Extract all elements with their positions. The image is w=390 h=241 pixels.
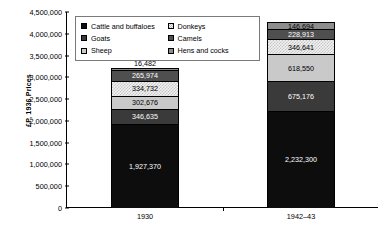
segment-cattle-and-buffaloes-1930[interactable]: 1,927,370 — [112, 124, 178, 208]
y-tick-label: 3,500,000 — [30, 51, 67, 60]
segment-value: 618,550 — [288, 65, 314, 72]
segment-camels-1930[interactable]: 265,974 — [112, 70, 178, 82]
y-tick-mark — [65, 77, 69, 78]
legend-item-cattle-and-buffaloes[interactable]: Cattle and buffaloes — [81, 22, 168, 31]
segment-goats-1942-43[interactable]: 675,176 — [268, 81, 334, 110]
segment-goats-1930[interactable]: 346,635 — [112, 109, 178, 124]
y-tick-label: 4,500,000 — [30, 8, 67, 17]
legend-item-goats[interactable]: Goats — [81, 34, 168, 43]
y-tick-mark — [65, 33, 69, 34]
segment-cattle-and-buffaloes-1942-43[interactable]: 2,232,300 — [268, 111, 334, 208]
y-tick-mark — [65, 208, 69, 209]
y-tick-label: 1,000,000 — [30, 160, 67, 169]
legend-item-hens-and-cocks[interactable]: Hens and cocks — [168, 46, 255, 55]
segment-value: 1,927,370 — [129, 163, 161, 170]
segment-value: 2,232,300 — [285, 156, 317, 163]
legend-label: Goats — [91, 34, 110, 43]
segment-value: 265,974 — [132, 72, 158, 79]
y-tick-mark — [65, 99, 69, 100]
y-tick-label: 4,000,000 — [30, 29, 67, 38]
segment-value: 346,641 — [288, 44, 314, 51]
y-tick-mark — [65, 186, 69, 187]
bar-1930[interactable]: 16,482 265,974 334,732 302,676 346,635 1… — [111, 68, 179, 207]
y-tick-label: 500,000 — [36, 182, 67, 191]
legend-label: Camels — [178, 34, 202, 43]
segment-sheep-1942-43[interactable]: 618,550 — [268, 54, 334, 81]
segment-value: 302,676 — [132, 99, 158, 106]
donkeys-swatch-icon — [168, 23, 174, 29]
hens-swatch-icon — [168, 48, 174, 54]
legend-label: Sheep — [91, 46, 112, 55]
legend-item-camels[interactable]: Camels — [168, 34, 255, 43]
y-tick-mark — [65, 164, 69, 165]
goats-swatch-icon — [81, 35, 87, 41]
camels-swatch-icon — [168, 35, 174, 41]
x-tick-mark — [223, 207, 224, 211]
segment-donkeys-1930[interactable]: 334,732 — [112, 81, 178, 96]
y-tick-mark — [65, 12, 69, 13]
segment-camels-1942-43[interactable]: 228,913 — [268, 29, 334, 39]
segment-value: 334,732 — [132, 85, 158, 92]
segment-value: 146,694 — [288, 23, 314, 29]
segment-sheep-1930[interactable]: 302,676 — [112, 96, 178, 109]
y-tick-label: 3,000,000 — [30, 73, 67, 82]
y-tick-label: 2,000,000 — [30, 116, 67, 125]
legend-label: Donkeys — [178, 22, 206, 31]
segment-donkeys-1942-43[interactable]: 346,641 — [268, 39, 334, 54]
y-tick-mark — [65, 142, 69, 143]
legend-label: Hens and cocks — [178, 46, 229, 55]
bar-1942-43[interactable]: 146,694 228,913 346,641 618,550 675,176 … — [267, 22, 335, 207]
x-tick-label-1930: 1930 — [137, 212, 153, 221]
x-tick-label-1942-43: 1942–43 — [287, 212, 315, 221]
legend-item-donkeys[interactable]: Donkeys — [168, 22, 255, 31]
segment-value: 675,176 — [288, 93, 314, 100]
chart-legend: Cattle and buffaloes Donkeys Goats Camel… — [75, 16, 260, 61]
cattle-swatch-icon — [81, 23, 87, 29]
legend-item-sheep[interactable]: Sheep — [81, 46, 168, 55]
y-tick-mark — [65, 55, 69, 56]
segment-value: 346,635 — [132, 113, 158, 120]
sheep-swatch-icon — [81, 48, 87, 54]
legend-label: Cattle and buffaloes — [91, 22, 155, 31]
y-tick-label: 1,500,000 — [30, 138, 67, 147]
y-tick-mark — [65, 120, 69, 121]
stacked-bar-chart: £P, 1936 Prices 0 500,000 1,000,000 1,50… — [0, 0, 390, 241]
y-tick-label: 2,500,000 — [30, 95, 67, 104]
segment-value: 228,913 — [288, 31, 314, 38]
